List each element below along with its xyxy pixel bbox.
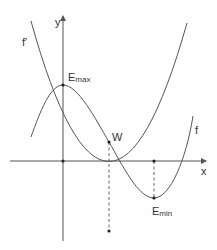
derivative-root-point [152, 159, 155, 162]
min-point [152, 196, 155, 199]
max-point [61, 83, 64, 86]
function-graph: y x f' f Emax W Emin [0, 0, 217, 250]
max-label: Emax [68, 71, 90, 84]
inflection-label: W [112, 131, 123, 143]
inflection-point [107, 140, 110, 143]
derivative-vertex-point [107, 229, 110, 232]
min-label: Emin [152, 205, 172, 218]
origin-point [61, 159, 64, 162]
y-axis-label: y [55, 16, 61, 28]
x-axis-label: x [201, 165, 207, 177]
function-label: f [195, 124, 199, 136]
derivative-label: f' [22, 36, 27, 48]
